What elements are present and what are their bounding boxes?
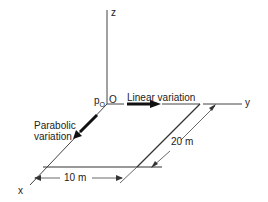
z-axis-label: z [111, 8, 116, 18]
pressure-label: pO [94, 96, 105, 108]
dimension-20m-label: 20 m [171, 137, 193, 147]
dimension-10m-label: 10 m [64, 173, 86, 183]
extension-line-corner [120, 167, 137, 183]
linear-variation-label: Linear variation [127, 93, 195, 103]
parabolic-variation-arrow [80, 115, 97, 132]
origin-label: O [109, 95, 117, 105]
parabolic-label-line1: Parabolic [34, 120, 76, 131]
y-axis-label: y [245, 98, 250, 108]
dimension-20m-line [181, 106, 215, 140]
pressure-subscript: O [100, 101, 105, 108]
x-axis-label: x [18, 186, 23, 196]
parabolic-label-line2: variation [34, 131, 76, 142]
parabolic-variation-label: Parabolic variation [34, 120, 76, 142]
arrowhead-20m-top [209, 104, 216, 111]
arrowhead-10m-right [116, 175, 123, 181]
